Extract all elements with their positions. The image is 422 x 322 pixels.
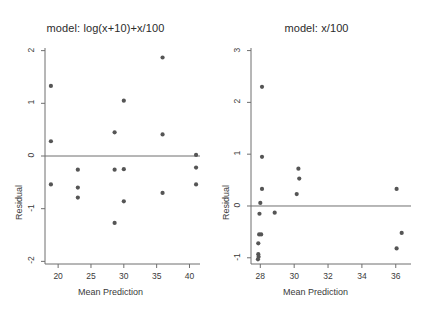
panel-left-data-point <box>160 132 164 136</box>
panel-right-data-point <box>260 85 264 89</box>
panel-left-y-tick-label: 0 <box>26 147 36 163</box>
panel-right-x-axis-label: Mean Prediction <box>283 287 348 297</box>
panel-left-x-tick-label: 30 <box>114 271 134 281</box>
panel-right-data-point <box>256 241 260 245</box>
panel-left-y-tick-label: -1 <box>26 200 36 216</box>
panel-left-y-tick-label: 1 <box>26 94 36 110</box>
panel-left-y-axis-label: Residual <box>14 185 24 220</box>
panel-right-y-tick-label: 0 <box>232 197 242 213</box>
panel-right-data-point <box>273 211 277 215</box>
panel-right-data-point <box>395 187 399 191</box>
panel-left-data-point <box>49 84 53 88</box>
panel-right-data-point <box>260 187 264 191</box>
panel-left-data-point <box>194 165 198 169</box>
panel-left-data-point <box>194 153 198 157</box>
panel-right-data-point <box>296 167 300 171</box>
panel-right-data-point <box>258 201 262 205</box>
panel-right-data-point <box>297 176 301 180</box>
panel-right-data-point <box>295 192 299 196</box>
panel-left-data-point <box>49 182 53 186</box>
panel-left-data-point <box>113 168 117 172</box>
panel-left-data-point <box>194 182 198 186</box>
panel-left: model: log(x+10)+x/100 Residual Mean Pre… <box>0 0 211 322</box>
panel-left-data-point <box>76 168 80 172</box>
panel-right-y-axis-label: Residual <box>221 185 231 220</box>
panel-right-x-tick-label: 36 <box>386 271 406 281</box>
panel-right-data-point <box>259 232 263 236</box>
panel-right-x-tick-label: 30 <box>284 271 304 281</box>
panel-right-y-tick-label: 1 <box>232 145 242 161</box>
panel-right-x-tick-label: 32 <box>318 271 338 281</box>
panel-left-data-point <box>122 167 126 171</box>
panel-left-x-tick-label: 20 <box>48 271 68 281</box>
panel-left-data-point <box>122 99 126 103</box>
panel-right-data-point <box>400 231 404 235</box>
panel-left-x-tick-label: 25 <box>81 271 101 281</box>
panel-right-data-point <box>395 246 399 250</box>
panel-left-data-point <box>160 55 164 59</box>
panel-left-x-axis-label: Mean Prediction <box>78 287 143 297</box>
panel-right-x-tick-label: 34 <box>352 271 372 281</box>
panel-right-y-tick-label: 3 <box>232 42 242 58</box>
panel-left-data-point <box>160 191 164 195</box>
panel-right-y-tick-label: -1 <box>232 249 242 265</box>
panel-right-data-point <box>256 257 260 261</box>
panel-left-data-point <box>113 130 117 134</box>
panel-left-y-tick-label: -2 <box>26 252 36 268</box>
panel-left-y-tick-label: 2 <box>26 42 36 58</box>
panel-left-data-point <box>76 186 80 190</box>
panel-left-data-point <box>122 199 126 203</box>
panel-left-data-point <box>113 221 117 225</box>
panel-left-data-point <box>49 139 53 143</box>
panel-right-data-point <box>260 155 264 159</box>
figure-root: model: log(x+10)+x/100 Residual Mean Pre… <box>0 0 422 322</box>
panel-right: model: x/100 Residual Mean Prediction -1… <box>211 0 422 322</box>
panel-right-data-point <box>257 212 261 216</box>
panel-left-x-tick-label: 40 <box>179 271 199 281</box>
panel-left-x-tick-label: 35 <box>147 271 167 281</box>
panel-right-y-tick-label: 2 <box>232 93 242 109</box>
panel-right-x-tick-label: 28 <box>250 271 270 281</box>
panel-left-data-point <box>76 196 80 200</box>
